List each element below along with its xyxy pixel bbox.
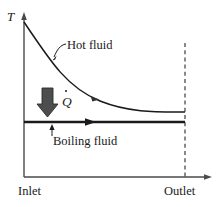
q-dot-accent-icon [65,90,67,92]
hot-fluid-label: Hot fluid [67,39,112,52]
hot-fluid-leader-line [54,44,66,57]
diagram-canvas [0,0,219,207]
boiling-fluid-flow-arrowhead [85,118,96,126]
heat-transfer-symbol: Q [62,94,72,109]
boiling-fluid-label: Boiling fluid [53,135,117,148]
x-axis-arrowhead [204,174,212,180]
temperature-profile-diagram: T Hot fluid Boiling fluid Q Inlet Outlet [0,0,219,207]
y-axis-label: T [7,10,14,23]
heat-transfer-arrow [37,88,58,117]
outlet-label: Outlet [164,185,195,198]
x-axis [24,174,212,180]
heat-transfer-label: Q [62,95,72,109]
inlet-label: Inlet [18,185,41,198]
boiling-fluid-leader-arrowhead [49,124,54,130]
y-axis-arrowhead [21,12,27,20]
y-axis [21,12,27,177]
